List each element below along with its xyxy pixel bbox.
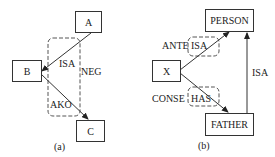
- edge-label-ako: AKO: [50, 100, 72, 110]
- group-label-ante: ANTE: [162, 41, 189, 51]
- edge-label-isa-b: ISA: [191, 41, 207, 51]
- caption-b: (b): [198, 140, 210, 151]
- node-a: A: [75, 11, 102, 33]
- node-b: B: [12, 60, 42, 82]
- edge-x-person: [180, 32, 229, 70]
- edge-label-isa-father: ISA: [252, 68, 268, 78]
- caption-a: (a): [54, 141, 65, 152]
- edge-label-isa: ISA: [59, 59, 75, 69]
- node-x: X: [152, 60, 181, 82]
- group-label-neg: NEG: [81, 67, 102, 77]
- node-father: FATHER: [205, 113, 254, 136]
- node-c: C: [76, 120, 105, 142]
- edge-label-has: HAS: [191, 94, 211, 104]
- group-label-conse: CONSE: [152, 94, 185, 104]
- node-person: PERSON: [205, 9, 254, 32]
